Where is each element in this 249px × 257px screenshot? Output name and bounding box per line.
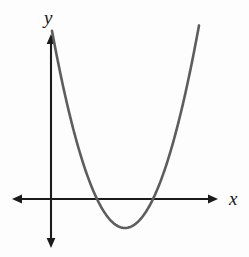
figure-canvas: y x [0, 0, 249, 257]
axes-group [12, 34, 218, 248]
parabola-curve [52, 25, 199, 228]
x-axis-left-arrowhead [12, 195, 22, 204]
graph-svg [0, 0, 249, 257]
curve-group [52, 25, 199, 228]
y-axis-label: y [44, 8, 52, 27]
x-axis-right-arrowhead [208, 195, 218, 204]
x-axis-label: x [229, 189, 237, 208]
y-axis-down-arrowhead [47, 238, 56, 248]
